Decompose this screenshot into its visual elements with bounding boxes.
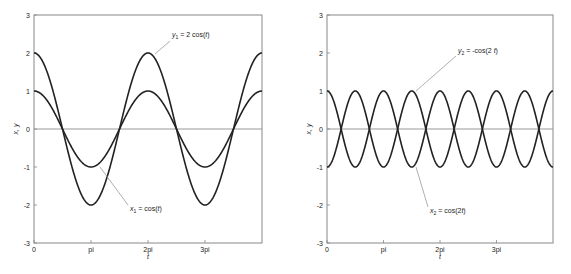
annotation-label: x1 = cos(t) (129, 205, 162, 214)
x-tick-label: 0 (325, 246, 329, 253)
annotation-leader (416, 167, 428, 207)
y-tick-label: 2 (26, 50, 30, 57)
x-tick-label: pi (88, 246, 94, 254)
annotation-label: x2 = cos(2t) (429, 207, 466, 216)
y-tick-label: 3 (26, 12, 30, 19)
x-tick-label: 3pi (200, 246, 210, 254)
chart-2: -3-2-101230pi2pi3pitx, yy2 = -cos(2 t)x2… (305, 12, 553, 261)
y-tick-label: 3 (319, 12, 323, 19)
annotation-label: y1 = 2 cos(t) (171, 31, 210, 40)
x-axis-label: t (147, 253, 150, 260)
chart-canvas: -3-2-101230pi2pi3pitx, yy1 = 2 cos(t)x1 … (0, 0, 571, 274)
y-axis-label: x, y (12, 123, 20, 135)
x-tick-label: 3pi (492, 246, 502, 254)
y-tick-label: 1 (26, 88, 30, 95)
annotation-label: y2 = -cos(2 t) (457, 47, 498, 56)
y-tick-label: -1 (24, 164, 30, 171)
y-tick-label: 2 (319, 50, 323, 57)
y-tick-label: -2 (317, 202, 323, 209)
x-tick-label: 0 (32, 246, 36, 253)
y-tick-label: -3 (317, 240, 323, 247)
y-tick-label: -1 (317, 164, 323, 171)
x-tick-label: pi (381, 246, 387, 254)
y-tick-label: 0 (26, 126, 30, 133)
y-tick-label: -2 (24, 202, 30, 209)
y-tick-label: 0 (319, 126, 323, 133)
annotation-leader (155, 41, 170, 54)
y-axis-label: x, y (305, 123, 313, 135)
y-tick-label: -3 (24, 240, 30, 247)
x-axis-label: t (439, 253, 442, 260)
chart-1: -3-2-101230pi2pi3pitx, yy1 = 2 cos(t)x1 … (12, 12, 262, 261)
annotation-leader (416, 56, 456, 91)
y-tick-label: 1 (319, 88, 323, 95)
